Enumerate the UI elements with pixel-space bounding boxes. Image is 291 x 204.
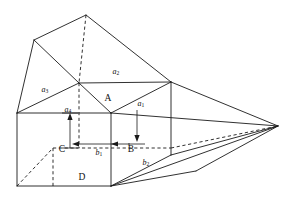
edge-cube-hidden-back-left-diagonal: [17, 148, 53, 186]
vertex-label-A: A: [105, 93, 112, 103]
edge-ridge-to-a2-right: [79, 82, 171, 83]
edge-left-upper-to-ridge: [34, 40, 79, 83]
edge-apex-vertical-hidden: [79, 15, 86, 83]
edge-apex-to-right-top: [86, 15, 171, 82]
dim-label-a3: a3: [42, 85, 49, 94]
b1-arrow-left-head: [72, 141, 79, 146]
edge-bottom-wedge-right: [196, 126, 278, 171]
vertex-label-B: B: [128, 144, 134, 154]
edge-bottom-wedge-lower: [111, 171, 196, 186]
edge-A-to-right-apex: [111, 113, 278, 126]
dim-label-a4: a4: [65, 105, 72, 114]
vertex-label-C: C: [59, 144, 65, 154]
a4-arrow-head: [67, 113, 72, 120]
b1-arrow-right-head: [111, 141, 118, 146]
edge-apex-to-left-upper: [34, 15, 86, 40]
edge-right-col-bottom-to-apex: [171, 126, 278, 155]
edge-right-top-to-apex: [171, 82, 278, 126]
edge-left-upper-to-left-top: [17, 40, 34, 113]
edge-hidden-right-diagonal: [171, 126, 278, 148]
a1-arrow-head: [134, 135, 139, 142]
dim-label-a2: a2: [113, 67, 120, 76]
dim-label-b2: b2: [143, 158, 150, 167]
geometry-canvas: A B C D a1 a2 a3 a4 b1 b2: [0, 0, 291, 204]
edge-A-to-a2-right: [111, 82, 171, 113]
dimension-arrows: [67, 110, 139, 148]
dim-label-a1: a1: [138, 99, 145, 108]
geometry-figure: A B C D a1 a2 a3 a4 b1 b2: [0, 0, 291, 204]
vertex-label-D: D: [79, 172, 86, 182]
edge-cube-bottom-to-right-col-bottom: [111, 155, 171, 186]
dimension-guides: [62, 113, 145, 148]
dim-label-b1: b1: [96, 148, 103, 157]
